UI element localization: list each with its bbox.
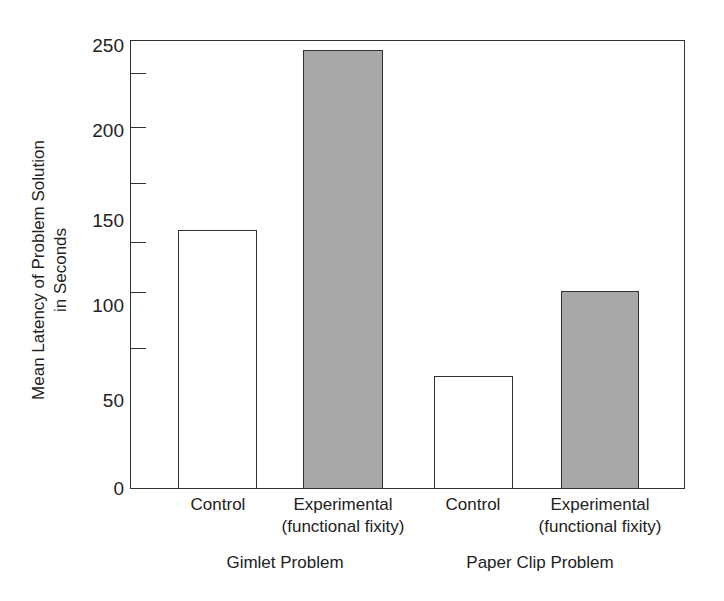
y-tick <box>130 73 146 74</box>
group-label-gimlet: Gimlet Problem <box>205 553 365 573</box>
y-tick <box>130 242 146 243</box>
bar-gimlet-control <box>178 230 257 489</box>
y-axis-title-line1: Mean Latency of Problem Solution <box>28 140 50 400</box>
y-label-150: 150 <box>92 211 124 230</box>
y-label-200: 200 <box>92 121 124 140</box>
x-label-paperclip-control: Control <box>433 494 513 516</box>
bar-paperclip-control <box>434 376 513 489</box>
y-axis-title: Mean Latency of Problem Solution in Seco… <box>28 140 72 400</box>
y-tick <box>130 183 146 184</box>
y-label-50: 50 <box>103 391 124 410</box>
x-label-gimlet-control: Control <box>178 494 258 516</box>
y-label-100: 100 <box>92 296 124 315</box>
bar-gimlet-experimental <box>303 50 383 489</box>
y-tick <box>130 348 146 349</box>
x-label-gimlet-experimental: Experimental (functional fixity) <box>273 494 413 538</box>
y-tick <box>130 127 146 128</box>
x-label-paperclip-experimental: Experimental (functional fixity) <box>530 494 670 538</box>
y-label-0: 0 <box>113 479 124 498</box>
y-tick <box>130 292 146 293</box>
y-label-250: 250 <box>92 36 124 55</box>
y-axis-title-line2: in Seconds <box>50 140 72 400</box>
bar-paperclip-experimental <box>561 291 639 489</box>
group-label-paperclip: Paper Clip Problem <box>440 553 640 573</box>
